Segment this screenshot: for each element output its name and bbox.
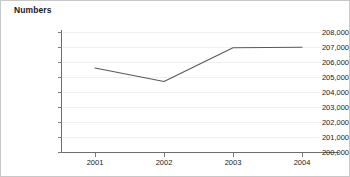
x-tick-mark bbox=[164, 153, 165, 157]
y-tick-mark bbox=[58, 92, 62, 93]
gridline bbox=[61, 122, 333, 123]
gridline bbox=[61, 137, 333, 138]
y-tick-mark bbox=[58, 107, 62, 108]
x-axis-label: 2001 bbox=[87, 158, 104, 167]
y-tick-mark bbox=[58, 122, 62, 123]
gridline bbox=[61, 107, 333, 108]
chart-figure: Numbers 208,000 207,000 206,000 205,000 … bbox=[0, 0, 350, 177]
y-axis-label: 206,000 bbox=[305, 58, 349, 67]
gridline bbox=[61, 92, 333, 93]
x-tick-mark bbox=[233, 153, 234, 157]
gridline bbox=[61, 47, 333, 48]
y-axis-label: 208,000 bbox=[305, 28, 349, 37]
y-tick-mark bbox=[58, 152, 62, 153]
x-axis-label: 2002 bbox=[156, 158, 173, 167]
y-tick-mark bbox=[58, 32, 62, 33]
y-axis-label: 203,000 bbox=[305, 103, 349, 112]
gridline bbox=[61, 62, 333, 63]
y-axis-label: 204,000 bbox=[305, 88, 349, 97]
y-axis-label: 201,000 bbox=[305, 133, 349, 142]
gridline bbox=[61, 77, 333, 78]
y-axis-label: 205,000 bbox=[305, 73, 349, 82]
chart-title: Numbers bbox=[14, 5, 52, 15]
y-tick-mark bbox=[58, 47, 62, 48]
x-axis-label: 2004 bbox=[294, 158, 311, 167]
plot-area bbox=[61, 32, 333, 152]
y-axis-label: 202,000 bbox=[305, 118, 349, 127]
y-axis-label: 200,000 bbox=[305, 148, 349, 157]
y-tick-mark bbox=[58, 137, 62, 138]
y-axis-label: 207,000 bbox=[305, 43, 349, 52]
x-axis-line bbox=[61, 152, 339, 153]
x-tick-mark bbox=[302, 153, 303, 157]
y-tick-mark bbox=[58, 77, 62, 78]
gridline bbox=[61, 32, 333, 33]
x-tick-mark bbox=[95, 153, 96, 157]
y-tick-mark bbox=[58, 62, 62, 63]
x-axis-label: 2003 bbox=[225, 158, 242, 167]
